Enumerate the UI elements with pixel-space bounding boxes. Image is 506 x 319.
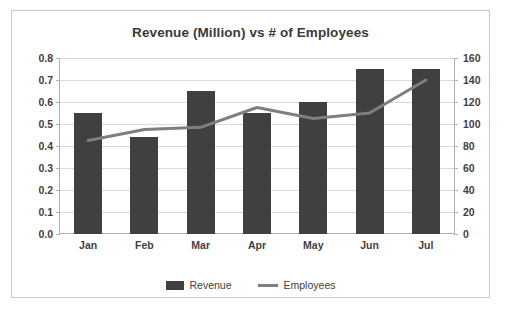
left-tick-mark [56,234,60,235]
right-tick-mark [454,80,458,81]
right-tick-mark [454,190,458,191]
legend-swatch-bar-icon [166,281,184,290]
category-label-may: May [285,240,341,251]
right-axis-tick-label: 160 [463,53,481,64]
left-axis-tick-label: 0.0 [38,229,53,240]
left-axis-tick-label: 0.3 [38,163,53,174]
plot-area: 0.00.10.20.30.40.50.60.70.8 020406080100… [60,58,454,234]
legend-item-employees: Employees [258,279,336,291]
right-axis-tick-label: 80 [463,141,475,152]
left-axis-tick-label: 0.8 [38,53,53,64]
right-axis-tick-label: 0 [463,229,469,240]
right-axis-tick-label: 20 [463,207,475,218]
legend-label-revenue: Revenue [190,279,232,291]
right-tick-mark [454,168,458,169]
chart-title: Revenue (Million) vs # of Employees [12,25,489,40]
category-label-mar: Mar [173,240,229,251]
chart-legend: Revenue Employees [12,279,489,291]
employees-line-path [88,80,426,141]
left-axis-tick-label: 0.1 [38,207,53,218]
legend-swatch-line-icon [258,284,278,287]
legend-label-employees: Employees [284,279,336,291]
category-label-apr: Apr [229,240,285,251]
right-tick-mark [454,212,458,213]
right-tick-mark [454,234,458,235]
chart-container: Revenue (Million) vs # of Employees 0.00… [11,10,490,298]
right-axis-tick-label: 60 [463,163,475,174]
left-axis-tick-label: 0.7 [38,75,53,86]
right-tick-mark [454,102,458,103]
line-series-employees [60,58,454,234]
right-axis-tick-label: 40 [463,185,475,196]
right-axis-tick-label: 100 [463,119,481,130]
right-axis-tick-label: 140 [463,75,481,86]
left-axis-tick-label: 0.4 [38,141,53,152]
category-label-jan: Jan [60,240,116,251]
left-axis-tick-label: 0.2 [38,185,53,196]
left-axis-tick-label: 0.6 [38,97,53,108]
category-label-feb: Feb [116,240,172,251]
left-axis-tick-label: 0.5 [38,119,53,130]
legend-item-revenue: Revenue [166,279,232,291]
category-label-jul: Jul [398,240,454,251]
right-axis-tick-label: 120 [463,97,481,108]
right-tick-mark [454,58,458,59]
right-tick-mark [454,146,458,147]
right-tick-mark [454,124,458,125]
category-label-jun: Jun [341,240,397,251]
